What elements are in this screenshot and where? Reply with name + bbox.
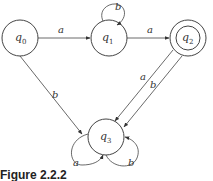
state-q0: q0 — [2, 20, 38, 56]
svg-text:b: b — [52, 89, 58, 100]
state-q3-label: q — [100, 130, 107, 143]
state-q1-label: q — [102, 31, 109, 44]
transition-q1-q2: a — [127, 24, 169, 38]
state-q1: q1 — [91, 20, 127, 56]
state-q2-accepting: q2 — [170, 20, 206, 56]
state-q0-label: q — [15, 31, 22, 44]
svg-text:a: a — [140, 71, 146, 82]
svg-text:a: a — [58, 24, 64, 35]
svg-text:q1: q1 — [102, 31, 114, 46]
svg-text:b: b — [128, 157, 134, 168]
transition-q2-q3-b: b — [124, 56, 182, 127]
transition-q3-loop-a: a — [71, 134, 103, 168]
svg-text:b: b — [150, 79, 156, 90]
svg-text:a: a — [147, 24, 153, 35]
transition-q0-q1: a — [38, 24, 90, 38]
svg-text:b: b — [115, 1, 121, 12]
automaton-diagram: q0 q1 q2 q3 a b a b a b — [0, 0, 213, 181]
figure-caption: Figure 2.2.2 — [0, 168, 67, 181]
svg-text:q2: q2 — [182, 31, 194, 46]
transition-q1-loop: b — [102, 1, 125, 25]
state-q2-label: q — [182, 31, 189, 44]
transition-q0-q3: b — [20, 56, 82, 134]
svg-text:a: a — [73, 157, 79, 168]
transition-q2-q3-a: a — [115, 50, 173, 121]
svg-text:q3: q3 — [100, 130, 112, 145]
state-q3: q3 — [88, 119, 124, 155]
svg-text:q0: q0 — [15, 31, 27, 46]
